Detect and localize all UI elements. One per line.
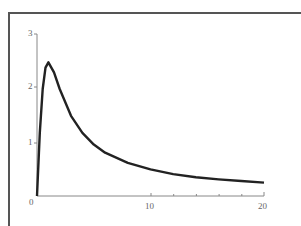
x-tick-label-0: 0 (29, 197, 34, 207)
x-axis (37, 192, 264, 196)
y-axis (34, 34, 37, 196)
y-tick-label-2: 2 (28, 81, 33, 91)
chart-plot (0, 0, 301, 226)
data-curve (37, 62, 264, 196)
x-tick-label-10: 10 (145, 201, 154, 211)
y-tick-label-1: 1 (28, 137, 33, 147)
x-tick-label-20: 20 (258, 201, 267, 211)
y-tick-label-3: 3 (28, 28, 33, 38)
